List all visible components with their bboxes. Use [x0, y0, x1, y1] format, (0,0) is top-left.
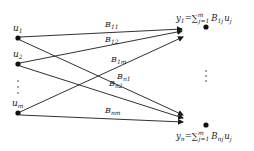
label-u2: u2 [13, 49, 23, 60]
edge-label-bnm: Bnm [104, 106, 121, 116]
equation-y1: y1=∑mj=1B1juj [175, 11, 232, 25]
edge-label-b11: B11 [104, 20, 119, 30]
edge-um-yn [20, 115, 183, 122]
network-diagram: u1 u2 um y1=∑mj=1B1juj yn=∑mj=1Bnjuj B11… [0, 0, 254, 151]
node-yn [203, 122, 208, 127]
label-um: um [12, 98, 24, 109]
edge-label-bn1: Bn1 [116, 72, 131, 82]
node-um [15, 110, 20, 115]
edge-label-b12: B12 [104, 35, 119, 45]
edge-u2-yn [20, 66, 183, 118]
label-u1: u1 [13, 23, 23, 34]
node-y1 [203, 24, 208, 29]
edge-um-y1 [20, 37, 183, 112]
equation-yn: yn=∑mj=1Bnjuj [175, 129, 232, 143]
node-u1 [15, 35, 20, 40]
node-u2 [15, 61, 20, 66]
ellipsis-left [17, 80, 19, 94]
edge-u1-yn [20, 40, 183, 115]
edge-label-b1m: B1m [110, 55, 127, 65]
ellipsis-right [205, 70, 207, 82]
